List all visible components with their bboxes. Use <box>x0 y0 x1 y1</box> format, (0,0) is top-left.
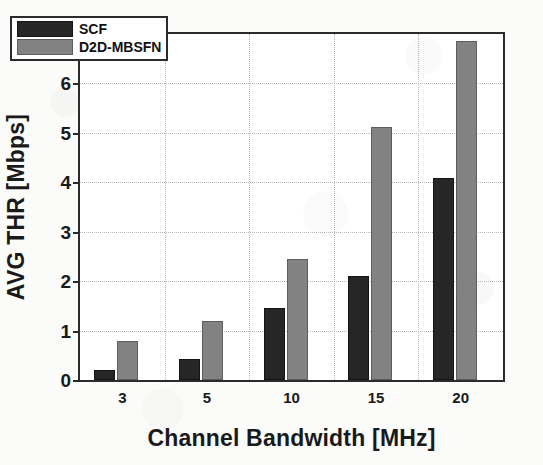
x-axis-title: Channel Bandwidth [MHz] <box>78 425 505 452</box>
x-tick-label: 15 <box>368 390 385 405</box>
x-tick-label: 20 <box>452 390 469 405</box>
y-tick-label: 1 <box>60 321 71 340</box>
bar-d2d-mbsfn-5 <box>202 321 223 380</box>
y-tick-mark <box>73 232 80 234</box>
y-tick-mark <box>73 331 80 333</box>
y-tick-mark <box>73 380 80 382</box>
gridline-horizontal <box>80 133 503 134</box>
bar-scf-5 <box>179 359 200 380</box>
y-tick-mark <box>73 281 80 283</box>
y-tick-label: 2 <box>60 272 71 291</box>
legend-label-scf: SCF <box>79 22 107 36</box>
y-tick-label: 6 <box>60 74 71 93</box>
legend-label-d2d-mbsfn: D2D-MBSFN <box>79 40 161 54</box>
y-tick-label: 0 <box>60 371 71 390</box>
legend-item-d2d-mbsfn: D2D-MBSFN <box>17 39 161 55</box>
legend-swatch-scf <box>17 21 73 37</box>
bar-d2d-mbsfn-20 <box>456 41 477 380</box>
x-tick-label: 5 <box>203 390 211 405</box>
chart-legend: SCF D2D-MBSFN <box>10 16 168 61</box>
x-tick-label: 10 <box>283 390 300 405</box>
bar-d2d-mbsfn-15 <box>371 127 392 380</box>
y-tick-label: 3 <box>60 222 71 241</box>
gridline-vertical <box>334 34 335 380</box>
gridline-vertical <box>249 34 250 380</box>
gridline-horizontal <box>80 83 503 84</box>
y-tick-label: 4 <box>60 173 71 192</box>
y-tick-mark <box>73 182 80 184</box>
bar-scf-15 <box>348 276 369 380</box>
x-tick-label: 3 <box>118 390 126 405</box>
plot-area: 0123456735101520 <box>78 32 505 382</box>
legend-item-scf: SCF <box>17 21 161 37</box>
y-tick-label: 5 <box>60 123 71 142</box>
chart-figure: 0123456735101520 AVG THR [Mbps] Channel … <box>0 0 543 465</box>
bar-scf-10 <box>264 308 285 380</box>
bar-scf-20 <box>433 178 454 380</box>
y-tick-mark <box>73 83 80 85</box>
legend-swatch-d2d-mbsfn <box>17 39 73 55</box>
bar-d2d-mbsfn-10 <box>287 259 308 380</box>
y-tick-mark <box>73 133 80 135</box>
gridline-vertical <box>418 34 419 380</box>
gridline-vertical <box>165 34 166 380</box>
bar-d2d-mbsfn-3 <box>117 341 138 380</box>
bar-scf-3 <box>94 370 115 380</box>
y-axis-title: AVG THR [Mbps] <box>3 114 30 300</box>
